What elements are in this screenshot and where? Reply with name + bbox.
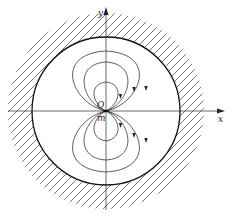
arrow-down-icon: [132, 133, 135, 138]
arrow-down-icon: [119, 123, 122, 128]
origin-label: O: [97, 100, 105, 110]
field-direction-arrows: [119, 86, 148, 143]
dipole-in-circle-diagram: y x O m: [0, 0, 232, 222]
arrow-down-icon: [144, 86, 147, 91]
y-axis-arrow-icon: [104, 7, 109, 15]
y-axis-label: y: [97, 8, 104, 18]
x-axis-label: x: [218, 114, 223, 124]
source-point: [103, 110, 109, 112]
source-label: m: [97, 113, 106, 123]
arrow-down-icon: [144, 138, 147, 143]
x-axis-arrow-icon: [217, 109, 225, 114]
arrow-down-icon: [119, 94, 122, 99]
